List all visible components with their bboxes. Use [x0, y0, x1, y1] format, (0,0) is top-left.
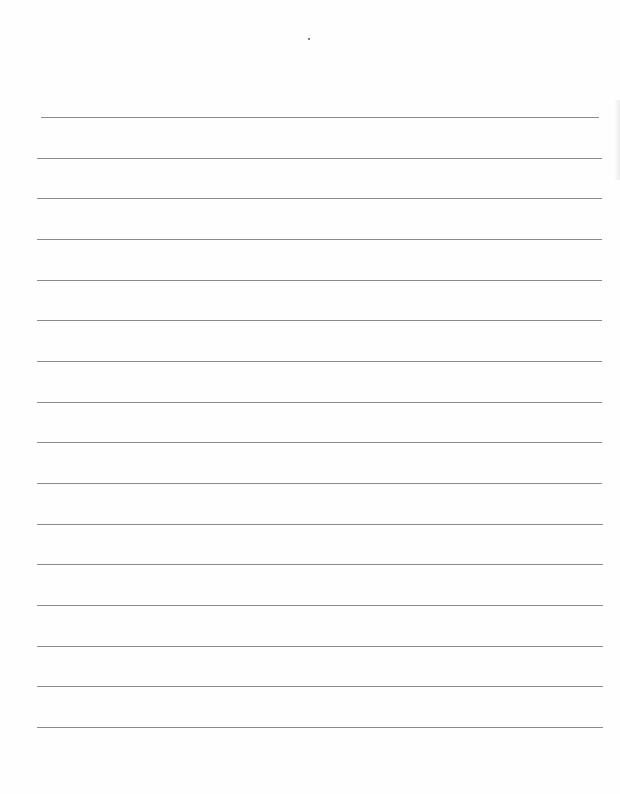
scan-speck [308, 38, 310, 40]
ruled-line [37, 280, 602, 281]
ruled-line [37, 646, 603, 647]
ruled-line [37, 564, 603, 565]
ruled-line [37, 239, 602, 240]
ruled-line [37, 402, 602, 403]
ruled-line [37, 686, 603, 687]
ruled-line [37, 158, 602, 159]
ruled-line [37, 442, 602, 443]
ruled-line [37, 361, 602, 362]
ruled-line [41, 117, 599, 118]
ruled-line [37, 320, 602, 321]
page-edge-shadow [614, 100, 620, 180]
ruled-line [37, 198, 602, 199]
ruled-line [37, 483, 602, 484]
ruled-line [37, 524, 603, 525]
ruled-line [37, 605, 603, 606]
lined-page [0, 0, 620, 794]
ruled-line [37, 727, 603, 728]
